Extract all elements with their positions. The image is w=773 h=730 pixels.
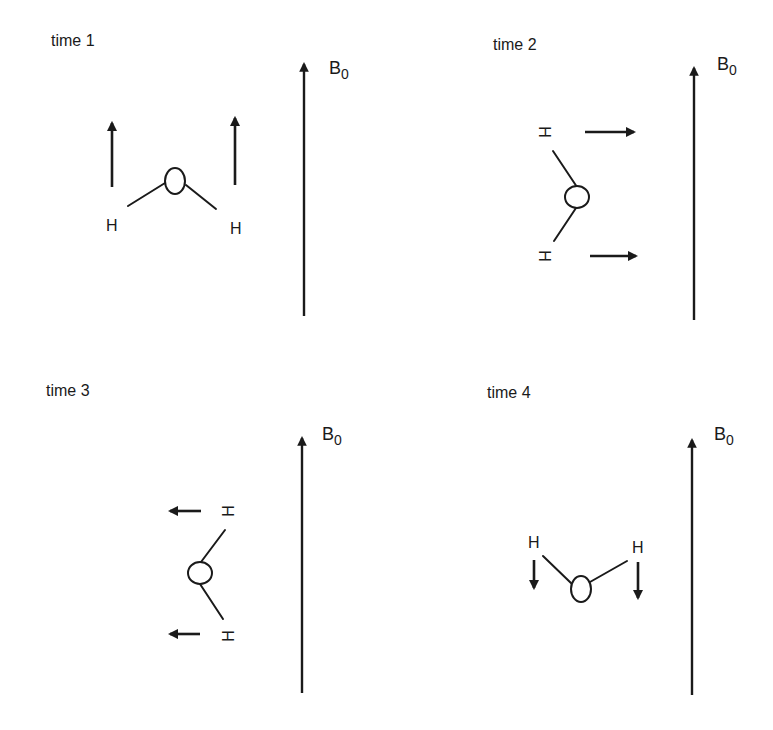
- time-label: time 4: [487, 384, 531, 401]
- oh-bond: [554, 208, 576, 241]
- hydrogen-label: H: [632, 539, 644, 556]
- b0-label: B0: [329, 58, 349, 82]
- oh-bond: [128, 183, 165, 206]
- hydrogen-label: H: [106, 217, 118, 234]
- oxygen-atom-icon: [188, 562, 212, 584]
- time-label: time 3: [46, 382, 90, 399]
- oxygen-atom-icon: [565, 186, 589, 208]
- panel-time-3: time 3 B0 H H: [46, 382, 342, 693]
- panel-time-4: time 4 B0 H H: [487, 384, 734, 695]
- oh-bond: [186, 185, 216, 209]
- water-spin-diagram: time 1 B0 H H time 2 B0 H H time 3 B0: [0, 0, 773, 730]
- hydrogen-label: H: [528, 534, 540, 551]
- oh-bond: [590, 561, 627, 582]
- oxygen-atom-icon: [165, 168, 185, 194]
- panel-time-1: time 1 B0 H H: [51, 32, 349, 316]
- hydrogen-label: H: [536, 126, 553, 138]
- b0-label: B0: [322, 424, 342, 448]
- hydrogen-label: H: [220, 630, 237, 642]
- oh-bond: [200, 584, 223, 619]
- time-label: time 1: [51, 32, 95, 49]
- oh-bond: [201, 530, 225, 562]
- oh-bond: [553, 151, 577, 187]
- time-label: time 2: [493, 36, 537, 53]
- b0-label: B0: [714, 424, 734, 448]
- panel-time-2: time 2 B0 H H: [493, 36, 737, 320]
- oh-bond: [543, 556, 572, 584]
- oxygen-atom-icon: [571, 576, 591, 602]
- hydrogen-label: H: [220, 505, 237, 517]
- b0-label: B0: [717, 54, 737, 78]
- hydrogen-label: H: [230, 220, 242, 237]
- hydrogen-label: H: [536, 250, 553, 262]
